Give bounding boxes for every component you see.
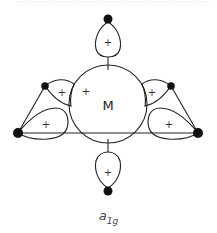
top-atom <box>104 15 113 24</box>
lower-left-atom <box>13 128 23 138</box>
plus-sign-lower-right: + <box>165 119 173 130</box>
bottom-atom <box>104 187 113 196</box>
orbital-diagram: + + + + + + + M <box>0 0 217 233</box>
lower-right-atom <box>193 128 203 138</box>
symmetry-label: a1g <box>0 208 217 226</box>
metal-atom-label: M <box>102 98 113 113</box>
upper-left-atom <box>41 82 49 90</box>
plus-sign-lower-left: + <box>42 119 50 130</box>
right-diagonal-bond <box>171 86 198 133</box>
plus-sign-top: + <box>104 37 112 48</box>
upper-right-ligand-lobe <box>142 80 171 106</box>
plus-sign-upper-left: + <box>58 87 66 98</box>
symmetry-label-subscript: 1g <box>107 216 118 226</box>
symmetry-label-main: a <box>99 208 107 223</box>
upper-right-atom <box>167 82 175 90</box>
plus-sign-bottom: + <box>104 167 112 178</box>
plus-sign-metal: + <box>82 86 90 97</box>
plus-sign-upper-right: + <box>148 87 156 98</box>
